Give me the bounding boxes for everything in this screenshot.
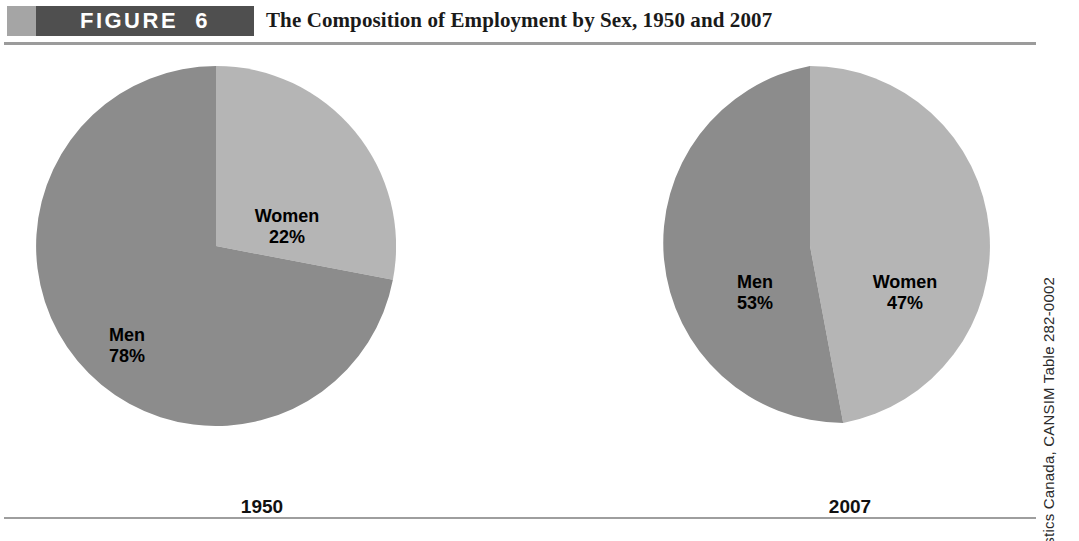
figure-number-label: FIGURE 6: [36, 6, 254, 36]
charts-container: Women 22% Men 78% 1950 Men 53% Women 47%…: [0, 46, 1079, 501]
figure-bottom-rule: [4, 517, 1036, 519]
pie-year-label-1950: 1950: [162, 496, 362, 518]
pie-chart-2007-graphic: [630, 66, 990, 426]
source-note: SOURCES: Statistics Canada, CANSIM Table…: [1040, 100, 1057, 541]
pie-chart-1950-graphic: [36, 66, 396, 426]
pie-chart-1950: Women 22% Men 78% 1950: [36, 66, 396, 426]
figure-title: The Composition of Employment by Sex, 19…: [266, 8, 772, 33]
pie-year-label-2007: 2007: [750, 496, 950, 518]
pie-chart-2007: Men 53% Women 47% 2007: [630, 66, 990, 426]
figure-header: FIGURE 6 The Composition of Employment b…: [0, 0, 1079, 44]
pie-slice-2007-women: [810, 66, 990, 423]
header-divider-rule: [4, 42, 1036, 45]
pie-slice-1950-women: [216, 66, 396, 280]
figure-tab-accent: [7, 6, 36, 36]
figure-number-block: FIGURE 6: [36, 6, 254, 36]
